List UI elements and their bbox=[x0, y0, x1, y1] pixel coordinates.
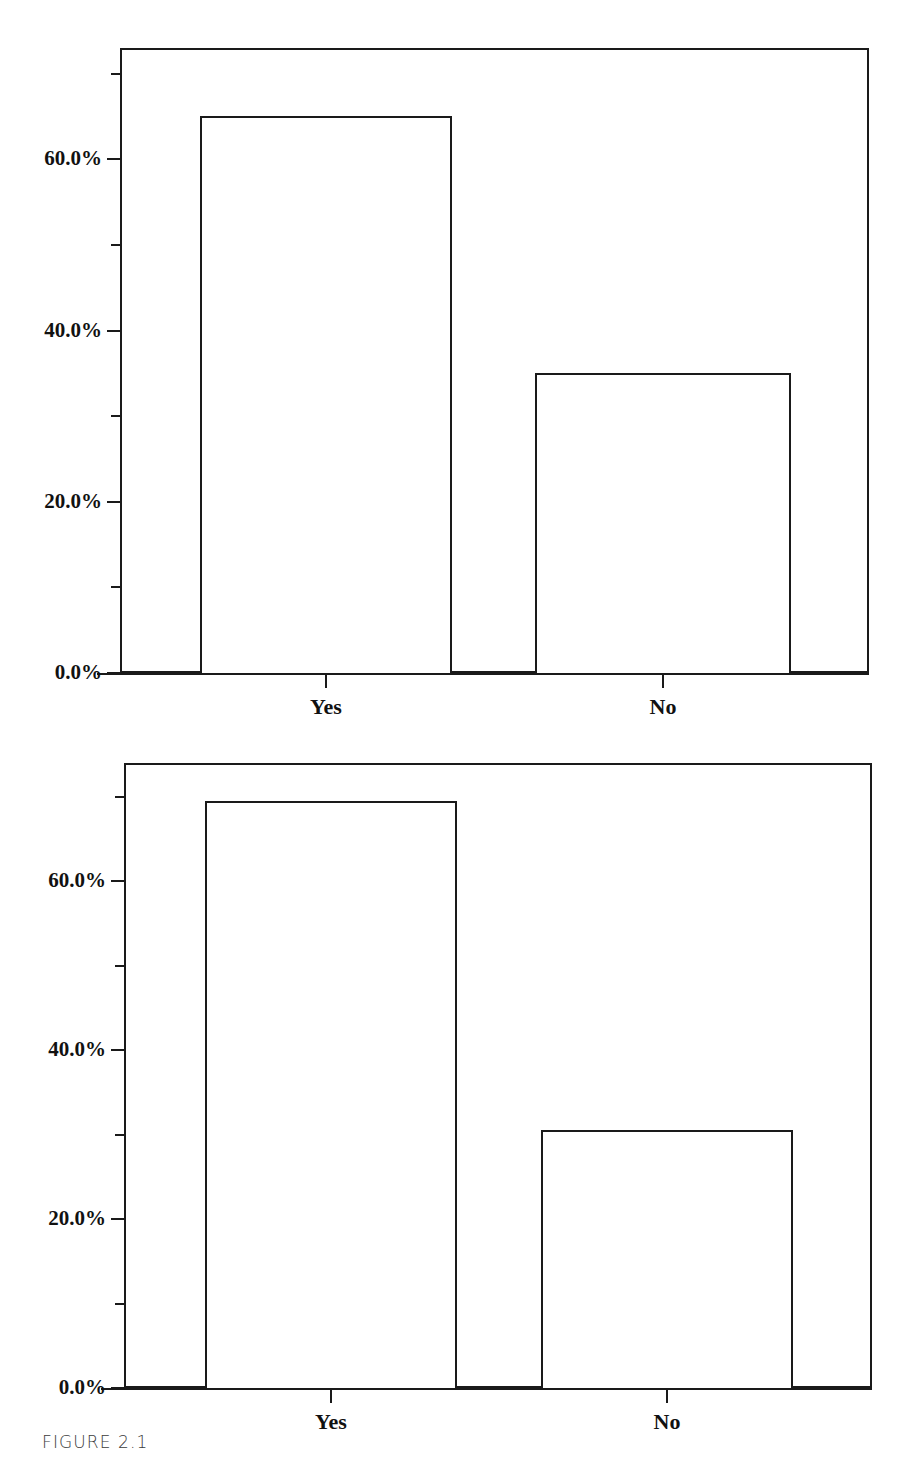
y-axis-tick-major bbox=[111, 1218, 124, 1220]
x-axis-line-top bbox=[97, 673, 869, 675]
y-axis-tick-label: 60.0% bbox=[0, 148, 102, 169]
y-axis-tick-minor bbox=[111, 73, 120, 75]
bar bbox=[205, 801, 457, 1388]
y-axis-tick-major bbox=[107, 501, 120, 503]
x-axis-category-label: Yes bbox=[246, 696, 406, 718]
y-axis-tick-minor bbox=[111, 244, 120, 246]
x-axis-category-label: Yes bbox=[251, 1411, 411, 1433]
y-axis-tick-minor bbox=[111, 415, 120, 417]
x-axis-category-label: No bbox=[583, 696, 743, 718]
y-axis-tick-major bbox=[107, 330, 120, 332]
y-axis-tick-label: 0.0% bbox=[0, 1377, 106, 1398]
figure-caption: FIGURE 2.1 bbox=[42, 1432, 148, 1452]
y-axis-tick-minor bbox=[115, 1303, 124, 1305]
y-axis-tick-minor bbox=[111, 586, 120, 588]
bar-chart-top: 0.0%20.0%40.0%60.0% YesNo bbox=[0, 0, 915, 740]
x-axis-tick bbox=[666, 1390, 668, 1403]
y-axis-tick-label: 0.0% bbox=[0, 662, 102, 683]
y-axis-tick-major bbox=[107, 672, 120, 674]
y-axis-tick-label: 40.0% bbox=[0, 320, 102, 341]
y-axis-tick-major bbox=[111, 1387, 124, 1389]
y-axis-tick-minor bbox=[115, 1134, 124, 1136]
bar-chart-bottom: 0.0%20.0%40.0%60.0% YesNo bbox=[0, 740, 915, 1440]
x-axis-tick bbox=[330, 1390, 332, 1403]
y-axis-tick-major bbox=[107, 158, 120, 160]
y-axis-tick-major bbox=[111, 1049, 124, 1051]
y-axis-tick-minor bbox=[115, 965, 124, 967]
y-axis-tick-minor bbox=[115, 796, 124, 798]
x-axis-category-label: No bbox=[587, 1411, 747, 1433]
y-axis-tick-label: 20.0% bbox=[0, 491, 102, 512]
x-axis-tick bbox=[325, 675, 327, 688]
y-axis-tick-label: 40.0% bbox=[0, 1039, 106, 1060]
y-axis-tick-major bbox=[111, 880, 124, 882]
x-axis-tick bbox=[662, 675, 664, 688]
y-axis-tick-label: 60.0% bbox=[0, 870, 106, 891]
bar bbox=[541, 1130, 793, 1388]
x-axis-line-bottom bbox=[101, 1388, 872, 1390]
bar bbox=[200, 116, 452, 673]
figure-page: 0.0%20.0%40.0%60.0% YesNo 0.0%20.0%40.0%… bbox=[0, 0, 915, 1473]
bar bbox=[535, 373, 791, 673]
y-axis-tick-label: 20.0% bbox=[0, 1208, 106, 1229]
